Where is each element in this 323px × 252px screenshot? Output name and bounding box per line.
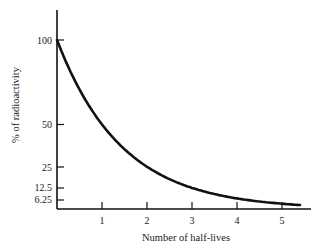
x-tick-label: 3 — [190, 215, 195, 226]
x-tick-label: 2 — [145, 215, 150, 226]
x-tick-labels: 1 2 3 4 5 — [100, 215, 285, 226]
x-tick-label: 4 — [235, 215, 240, 226]
x-tick-label: 5 — [280, 215, 285, 226]
decay-curve — [57, 40, 300, 205]
y-tick-label: 25 — [42, 162, 52, 173]
y-tick-label: 12.5 — [35, 182, 53, 193]
y-tick-label: 50 — [42, 119, 52, 130]
x-axis-title: Number of half-lives — [142, 232, 230, 243]
y-axis-title: % of radioactivity — [10, 66, 21, 143]
y-tick-labels: 100 50 25 12.5 6.25 — [35, 35, 53, 206]
y-tick-label: 6.25 — [35, 194, 53, 205]
decay-chart: 100 50 25 12.5 6.25 1 2 3 4 5 Number of … — [0, 0, 323, 252]
y-tick-label: 100 — [37, 35, 52, 46]
x-tick-label: 1 — [100, 215, 105, 226]
x-ticks — [102, 202, 282, 209]
y-ticks — [57, 40, 64, 200]
